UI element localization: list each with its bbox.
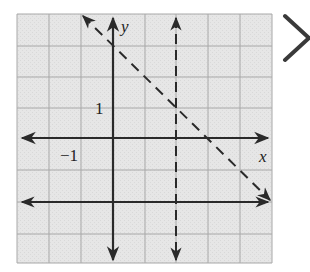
tick-label-x-neg1: −1 <box>60 146 78 165</box>
tick-label-y-1: 1 <box>95 99 104 118</box>
coordinate-graph: y x 1 −1 <box>0 0 310 272</box>
x-axis-label: x <box>258 147 267 166</box>
x-mark-icon <box>285 16 309 60</box>
y-axis-label: y <box>119 17 129 36</box>
